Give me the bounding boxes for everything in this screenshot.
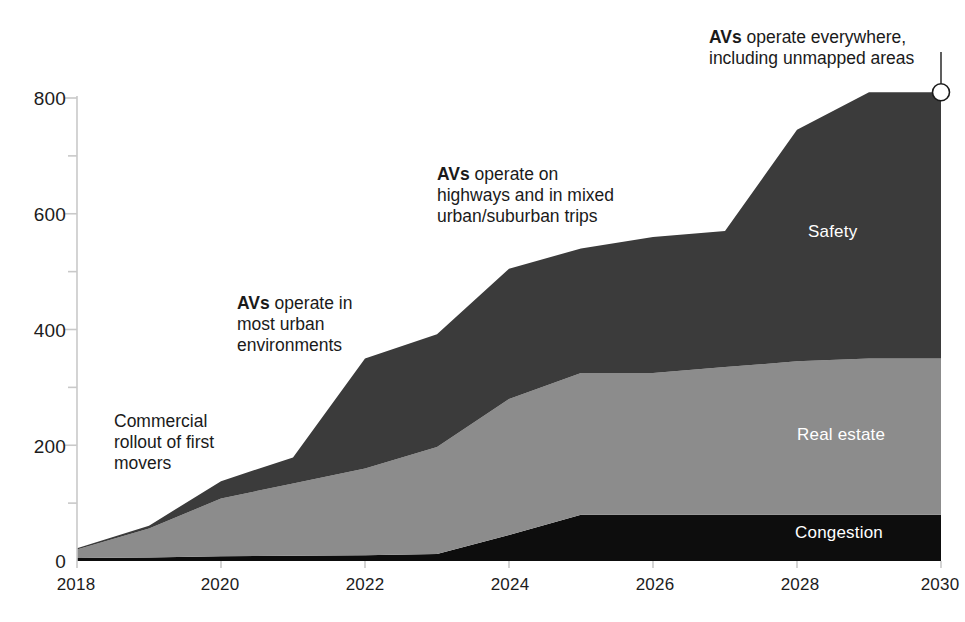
series-label-real-estate: Real estate (797, 425, 885, 445)
annotation-avs-urban: AVs operate in most urban environments (237, 272, 352, 356)
annotation-lead-avs-urban: AVs (237, 293, 270, 313)
annotation-lead-avs-everywhere: AVs (709, 27, 742, 47)
y-tick-label-0: 0 (10, 551, 66, 573)
end-point-marker (933, 84, 950, 101)
series-label-safety: Safety (808, 222, 857, 242)
x-tick-label-2030: 2030 (900, 575, 965, 595)
x-tick-label-2018: 2018 (36, 575, 116, 595)
annotation-avs-highways: AVs operate on highways and in mixed urb… (437, 143, 614, 227)
x-tick-label-2020: 2020 (180, 575, 260, 595)
annotation-leader-line (933, 52, 950, 101)
x-tick-label-2022: 2022 (325, 575, 405, 595)
x-tick-label-2024: 2024 (470, 575, 550, 595)
x-tick-label-2028: 2028 (760, 575, 840, 595)
y-tick-label-400: 400 (10, 320, 66, 342)
stacked-area-chart: 800 600 400 200 0 2018 2020 2022 2024 20… (0, 0, 965, 622)
y-tick-label-200: 200 (10, 436, 66, 458)
x-tick-label-2026: 2026 (615, 575, 695, 595)
annotation-lead-avs-highways: AVs (437, 164, 470, 184)
annotation-avs-everywhere: AVs operate everywhere, including unmapp… (709, 6, 914, 69)
annotation-text-commercial-rollout: Commercial rollout of first movers (114, 411, 214, 473)
series-label-congestion: Congestion (795, 523, 883, 543)
y-tick-label-600: 600 (10, 204, 66, 226)
annotation-commercial-rollout: Commercial rollout of first movers (114, 390, 214, 474)
y-tick-label-800: 800 (10, 88, 66, 110)
